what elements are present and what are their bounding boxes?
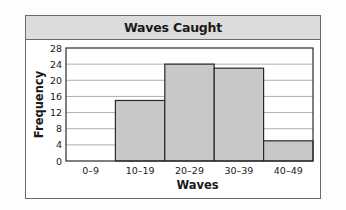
- y-tick-label: 8: [56, 123, 62, 134]
- y-axis-ticks: 0481216202428: [50, 43, 62, 167]
- y-tick-label: 4: [56, 139, 62, 150]
- y-tick-label: 0: [56, 156, 62, 167]
- y-tick-label: 16: [50, 91, 62, 102]
- x-category-label: 20–29: [175, 165, 204, 176]
- x-axis-categories: 0–910–1920–2930–3940–49: [82, 165, 302, 176]
- y-tick-label: 12: [50, 107, 62, 118]
- y-axis-title: Frequency: [32, 70, 46, 138]
- histogram-bar: [165, 64, 214, 161]
- y-tick-label: 20: [50, 75, 62, 86]
- x-category-label: 0–9: [82, 165, 99, 176]
- x-category-label: 10–19: [126, 165, 155, 176]
- x-axis-title: Waves: [176, 178, 218, 192]
- histogram-plot: 0481216202428 0–910–1920–2930–3940–49 Fr…: [0, 0, 346, 210]
- y-tick-label: 28: [50, 43, 62, 54]
- histogram-bar: [264, 141, 313, 161]
- x-category-label: 40–49: [274, 165, 303, 176]
- y-tick-label: 24: [50, 59, 62, 70]
- histogram-bar: [214, 68, 263, 161]
- histogram-bar: [115, 100, 164, 161]
- x-category-label: 30–39: [224, 165, 253, 176]
